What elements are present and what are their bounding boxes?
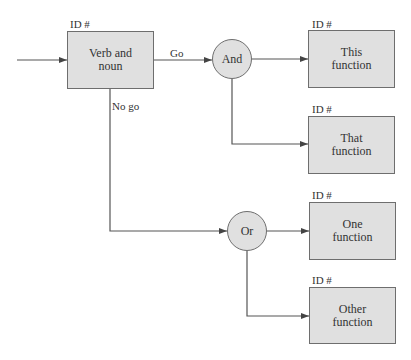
and-to-that-arrow: [232, 79, 308, 144]
id-label-other-function: ID #: [312, 275, 332, 286]
or-gate-label: Or: [241, 224, 254, 239]
function-label-line1: Other: [333, 303, 373, 316]
or-to-other-arrow: [247, 251, 309, 316]
function-label-line2: function: [332, 59, 372, 72]
function-box-that[interactable]: That function: [308, 116, 395, 174]
function-label-line2: noun: [89, 60, 132, 73]
and-gate[interactable]: And: [212, 39, 252, 79]
or-gate[interactable]: Or: [227, 211, 267, 251]
id-label-verb-noun: ID #: [70, 19, 90, 30]
edge-label-go: Go: [170, 48, 183, 59]
function-box-verb-noun[interactable]: Verb and noun: [67, 31, 154, 89]
function-label-line2: function: [332, 145, 372, 158]
id-label-that-function: ID #: [312, 104, 332, 115]
function-label-line2: function: [333, 316, 373, 329]
id-label-one-function: ID #: [312, 190, 332, 201]
id-label-this-function: ID #: [312, 19, 332, 30]
edge-label-no-go: No go: [112, 101, 139, 112]
function-box-other[interactable]: Other function: [309, 287, 396, 344]
function-label-line2: function: [333, 231, 373, 244]
function-box-this[interactable]: This function: [308, 30, 395, 88]
function-box-one[interactable]: One function: [309, 202, 396, 260]
and-gate-label: And: [222, 52, 243, 67]
